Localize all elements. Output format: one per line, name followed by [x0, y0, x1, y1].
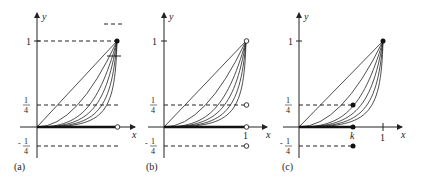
panel-b: y x 1 1 4 - 1 4 1 (b): [145, 11, 271, 173]
svg-text:1: 1: [151, 137, 155, 146]
tick-1: 1: [26, 36, 31, 47]
svg-text:1: 1: [152, 36, 157, 47]
panel-label-b: (b): [146, 161, 158, 173]
panel-c: y x 1 1 4 - 1 4 1 k (c): [280, 11, 406, 173]
svg-text:1: 1: [286, 137, 290, 146]
svg-text:-: -: [18, 139, 21, 148]
svg-text:1: 1: [380, 132, 385, 143]
svg-text:4: 4: [286, 147, 290, 156]
svg-text:-: -: [280, 139, 283, 148]
svg-text:4: 4: [24, 106, 28, 115]
panel-label-c: (c): [282, 161, 293, 173]
svg-text:1: 1: [24, 96, 28, 105]
svg-text:4: 4: [286, 106, 290, 115]
x-axis-label: x: [131, 129, 137, 140]
svg-text:y: y: [168, 11, 174, 22]
svg-text:4: 4: [24, 147, 28, 156]
svg-text:-: -: [145, 139, 148, 148]
svg-text:x: x: [400, 129, 406, 140]
svg-text:4: 4: [151, 106, 155, 115]
svg-text:1: 1: [243, 130, 248, 141]
figure: y x 1 1 4 - 1 4 (a) y: [0, 0, 424, 182]
svg-text:1: 1: [286, 96, 290, 105]
svg-text:1: 1: [24, 137, 28, 146]
svg-text:y: y: [303, 11, 309, 22]
y-axis-label: y: [41, 11, 47, 22]
svg-text:1: 1: [151, 96, 155, 105]
svg-text:x: x: [265, 129, 271, 140]
panel-a: y x 1 1 4 - 1 4 (a): [14, 11, 137, 173]
svg-text:k: k: [350, 130, 355, 141]
svg-text:4: 4: [151, 147, 155, 156]
svg-text:1: 1: [288, 36, 293, 47]
panel-label-a: (a): [14, 161, 25, 173]
